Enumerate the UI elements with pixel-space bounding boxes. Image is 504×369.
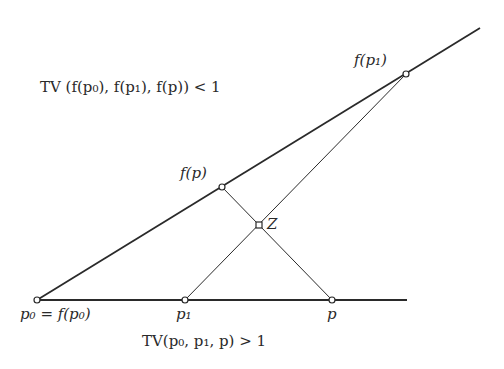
point-p0 — [34, 297, 40, 303]
point-Z — [256, 222, 262, 228]
label-Z: Z — [267, 217, 277, 232]
point-fp — [219, 184, 225, 190]
label-p0: p₀ = f(p₀) — [20, 307, 91, 322]
image-line — [37, 28, 480, 300]
caption-top: TV (f(p₀), f(p₁), f(p)) < 1 — [40, 80, 221, 95]
segment-fp-p — [222, 187, 332, 300]
segment-p1-fp1 — [185, 74, 406, 300]
label-fp: f(p) — [180, 166, 207, 181]
caption-bottom: TV(p₀, p₁, p) > 1 — [142, 334, 266, 349]
point-p — [329, 297, 335, 303]
diagram-canvas: p₀ = f(p₀) p₁ p f(p) f(p₁) Z TV (f(p₀), … — [0, 0, 504, 369]
label-fp1: f(p₁) — [354, 53, 387, 68]
point-fp1 — [403, 71, 409, 77]
label-p1: p₁ — [176, 307, 192, 322]
point-p1 — [182, 297, 188, 303]
label-p: p — [327, 307, 337, 322]
